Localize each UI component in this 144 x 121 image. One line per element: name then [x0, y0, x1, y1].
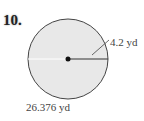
center-point [66, 57, 71, 62]
circumference-label: 26.376 yd [26, 101, 70, 113]
circle-diagram [0, 0, 144, 121]
radius-label: 4.2 yd [110, 36, 138, 48]
